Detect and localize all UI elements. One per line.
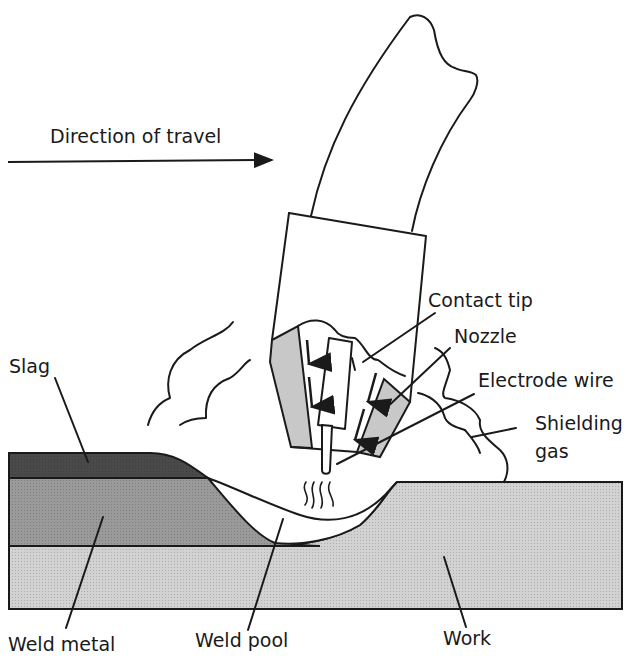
direction-arrow-icon [8, 160, 272, 162]
leader-contact-tip [363, 313, 435, 362]
torch-head [289, 213, 426, 402]
label-nozzle: Nozzle [454, 325, 517, 347]
label-weld-metal: Weld metal [8, 633, 115, 655]
label-contact-tip: Contact tip [428, 289, 533, 311]
direction-of-travel: Direction of travel [8, 125, 272, 162]
label-slag: Slag [9, 355, 50, 377]
nozzle-right-wall [357, 379, 410, 457]
nozzle-left-wall [270, 326, 312, 448]
leader-nozzle [382, 348, 450, 412]
electrode-wire [322, 425, 332, 474]
label-work: Work [443, 627, 491, 649]
label-shielding-gas-2: gas [535, 440, 569, 462]
welding-diagram: Direction of travel [0, 0, 633, 665]
label-electrode-wire: Electrode wire [478, 369, 614, 391]
label-weld-pool: Weld pool [195, 629, 288, 651]
slag [9, 453, 208, 478]
leader-shielding-gas [472, 428, 516, 437]
torch-handle [311, 15, 477, 231]
arc-icon [304, 482, 333, 508]
direction-label: Direction of travel [50, 125, 221, 147]
leader-slag [55, 378, 88, 462]
label-shielding-gas-1: Shielding [535, 412, 623, 434]
shielding-gas-cloud-left [148, 322, 250, 425]
contact-tip [318, 338, 352, 429]
